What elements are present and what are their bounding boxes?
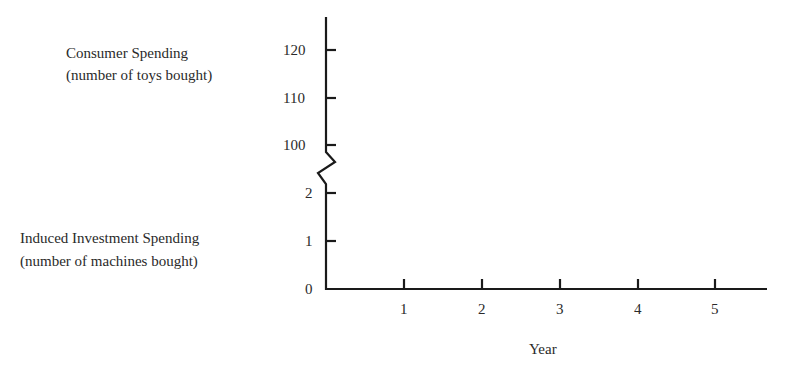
y-tick-0: 0 [305,280,313,298]
x-tick-3: 3 [556,300,564,318]
x-tick-5: 5 [711,300,719,318]
y-tick-100: 100 [283,136,306,154]
y-tick-1: 1 [305,232,313,250]
y-tick-110: 110 [283,89,305,107]
y-tick-120: 120 [283,41,306,59]
x-tick-2: 2 [478,300,486,318]
x-tick-4: 4 [634,300,642,318]
x-axis-label: Year [529,338,557,360]
x-tick-1: 1 [400,300,408,318]
y-tick-2: 2 [305,184,313,202]
